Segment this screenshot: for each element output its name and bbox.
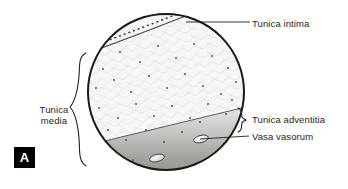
label-tunica-media-line2: media <box>41 115 67 126</box>
label-vasa-vasorum: Vasa vasorum <box>252 131 313 142</box>
label-tunica-media: Tunica media <box>31 104 77 126</box>
label-tunica-adventitia: Tunica adventitia <box>252 114 325 125</box>
panel-letter-badge: A <box>14 147 35 168</box>
figure-panel: Tunica intima Tunica adventitia Vasa vas… <box>0 0 348 189</box>
vessel-body <box>70 0 250 185</box>
label-tunica-intima: Tunica intima <box>252 18 309 29</box>
label-tunica-media-line1: Tunica <box>40 104 69 115</box>
